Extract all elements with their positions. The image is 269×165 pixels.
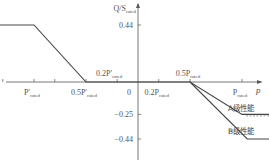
x-tick-label: Prated [233,88,248,98]
chart: P′rated0.5P′rated0.2P′rated00.2Prated0.5… [0,0,269,165]
y-tick-label: −0.25 [114,110,133,119]
x-axis-arrow-icon [257,80,262,84]
x-tick-label: 0 [127,88,131,97]
series-line-a [0,25,269,114]
x-axis-label: P [255,88,261,97]
y-axis-label: Q/Srated [114,4,137,14]
x-tick-label: 0.5P′rated [71,88,98,98]
x-tick-label: P′rated [24,88,41,98]
x-tick-label: 0.2Prated [145,88,170,98]
labels: P′rated0.5P′rated0.2P′rated00.2Prated0.5… [24,4,261,144]
x-tick-label: 0.2P′rated [96,69,123,79]
x-tick-label: 0.5Prated [176,69,201,79]
legend-b-label: B级性能 [228,126,255,136]
y-tick-label: −0.44 [114,135,133,144]
legend-a-label: A级性能 [228,103,255,113]
y-tick-label: 0.44 [119,21,133,30]
y-axis-arrow-icon [136,3,140,8]
